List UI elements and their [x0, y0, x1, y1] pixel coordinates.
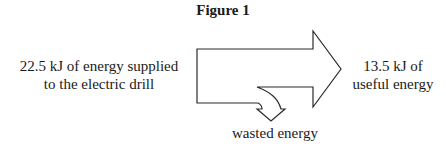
sankey-arrow-icon	[197, 31, 341, 121]
sankey-arrow-diagram	[0, 0, 446, 151]
